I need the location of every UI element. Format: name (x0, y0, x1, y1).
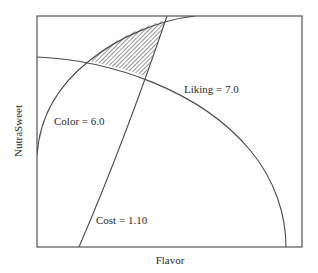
liking-contour-curve (37, 57, 286, 247)
contour-plot-figure: Liking = 7.0 Color = 6.0 Cost = 1.10 Fla… (0, 0, 318, 273)
plot-frame (37, 16, 302, 247)
color-label: Color = 6.0 (54, 115, 105, 127)
y-axis-label: NutraSweet (12, 105, 24, 157)
color-contour-curve (37, 16, 195, 155)
feasible-region-hatch (89, 20, 166, 76)
liking-label: Liking = 7.0 (184, 83, 239, 95)
x-axis-label: Flavor (156, 254, 185, 266)
plot-svg: Liking = 7.0 Color = 6.0 Cost = 1.10 Fla… (0, 0, 318, 273)
cost-label: Cost = 1.10 (96, 214, 148, 226)
